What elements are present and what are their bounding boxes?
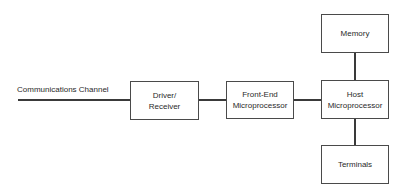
host-microprocessor-box: Host Microprocessor bbox=[321, 80, 389, 119]
connector-host-memory bbox=[354, 53, 356, 80]
connector-frontend-host bbox=[294, 99, 321, 101]
memory-label: Memory bbox=[341, 28, 370, 39]
host-label-line1: Host bbox=[328, 89, 383, 100]
frontend-label-line2: Microprocessor bbox=[233, 100, 288, 111]
host-label-line2: Microprocessor bbox=[328, 100, 383, 111]
terminals-box: Terminals bbox=[321, 145, 389, 184]
frontend-microprocessor-box: Front-End Microprocessor bbox=[226, 81, 294, 119]
connector-driver-frontend bbox=[199, 99, 226, 101]
driver-receiver-label-line2: Receiver bbox=[149, 101, 181, 112]
memory-box: Memory bbox=[321, 14, 389, 53]
connector-host-terminals bbox=[354, 119, 356, 145]
frontend-label-line1: Front-End bbox=[233, 89, 288, 100]
driver-receiver-box: Driver/ Receiver bbox=[130, 81, 199, 120]
communications-channel-label: Communications Channel bbox=[17, 85, 109, 95]
communications-channel-line bbox=[18, 99, 130, 101]
driver-receiver-label-line1: Driver/ bbox=[149, 90, 181, 101]
terminals-label: Terminals bbox=[338, 159, 372, 170]
